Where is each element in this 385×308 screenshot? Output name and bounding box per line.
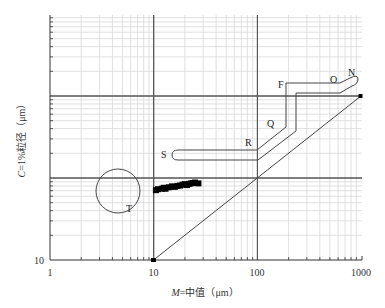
label-f: F: [278, 79, 284, 90]
y-tick-label-10: 10: [34, 255, 44, 266]
x-axis-title-text: =中值（μm）: [180, 286, 239, 298]
y-axis-title-text: =1%粒径（μm）: [15, 99, 27, 171]
x-tick-label-100: 100: [250, 267, 265, 278]
x-tick-label-10: 10: [149, 267, 159, 278]
cm-diagram: 1 10 100 1000 10 M=中值（μm） C=1%粒径（μm） N O…: [0, 0, 385, 308]
major-grid: [50, 15, 362, 260]
x-tick-label-1: 1: [48, 267, 53, 278]
label-n: N: [348, 67, 355, 78]
label-q: Q: [267, 118, 275, 129]
y-axis-title: C=1%粒径（μm）: [15, 99, 27, 178]
label-s: S: [161, 149, 167, 160]
x-tick-label-1000: 1000: [351, 267, 371, 278]
label-r: R: [245, 137, 252, 148]
data-point: [195, 180, 201, 186]
minor-grid: [50, 15, 362, 260]
label-o: O: [330, 74, 337, 85]
x-axis-title: M=中值（μm）: [170, 286, 238, 298]
label-t: T: [126, 203, 132, 214]
ref-line-start-marker: [151, 258, 156, 262]
ref-line-end-marker: [359, 94, 363, 98]
